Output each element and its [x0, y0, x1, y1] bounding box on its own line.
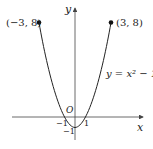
origin-label: O — [66, 106, 73, 115]
graph-figure: (−3, 8) (3, 8) y x y = x² − 1 O −1 1 −1 — [0, 0, 153, 149]
y-tick-neg1: −1 — [63, 128, 75, 136]
x-axis-label: x — [137, 122, 143, 133]
endpoint-left-label: (−3, 8) — [6, 18, 41, 28]
endpoint-right-label: (3, 8) — [116, 18, 143, 28]
x-tick-1: 1 — [84, 120, 89, 128]
equation-label: y = x² − 1 — [106, 69, 153, 79]
y-axis-label: y — [65, 4, 71, 15]
endpoint-right — [109, 20, 114, 25]
